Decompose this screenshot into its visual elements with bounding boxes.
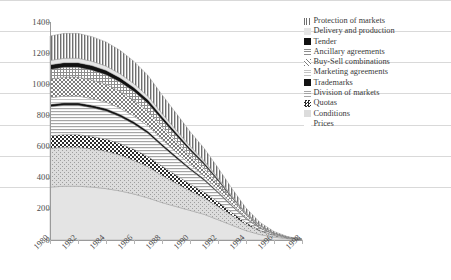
legend-item[interactable]: Marketing agreements xyxy=(304,67,450,77)
legend-item-label: Prices xyxy=(314,119,334,129)
x-axis-tick xyxy=(162,240,163,244)
legend-item-label: Delivery and production xyxy=(314,26,395,36)
legend-item-label: Conditions xyxy=(314,109,350,119)
legend-item-label: Protection of markets xyxy=(314,16,385,26)
x-axis-tick xyxy=(302,240,303,244)
legend-item[interactable]: Conditions xyxy=(304,109,450,119)
y-axis-tick xyxy=(46,147,50,148)
checker-swatch xyxy=(304,100,311,107)
x-axis-tick xyxy=(190,240,191,244)
legend-item[interactable]: Tender xyxy=(304,37,450,47)
x-axis-tick xyxy=(50,240,51,244)
legend-item-label: Marketing agreements xyxy=(314,67,388,77)
x-axis-label: 1980 xyxy=(32,233,50,251)
legend-item-label: Buy-Sell combinations xyxy=(314,57,390,67)
legend-item-label: Trademarks xyxy=(314,78,353,88)
x-axis-tick xyxy=(106,240,107,244)
speckle-swatch xyxy=(304,110,311,117)
grid-hatch-swatch xyxy=(304,48,311,55)
x-axis-label: 1992 xyxy=(200,233,218,251)
solid-black-swatch xyxy=(304,38,311,45)
x-axis-tick xyxy=(274,240,275,244)
legend-item[interactable]: Ancillary agreements xyxy=(304,47,450,57)
legend-item[interactable]: Delivery and production xyxy=(304,26,450,36)
legend-item[interactable]: Division of markets xyxy=(304,88,450,98)
legend-item[interactable]: Prices xyxy=(304,119,450,129)
legend-item-label: Ancillary agreements xyxy=(314,47,385,57)
legend-item-label: Tender xyxy=(314,37,337,47)
x-axis-label: 1996 xyxy=(256,233,274,251)
y-axis-tick xyxy=(46,115,50,116)
legend-item-label: Division of markets xyxy=(314,88,380,98)
y-axis-tick xyxy=(46,209,50,210)
x-axis-label: 1984 xyxy=(88,233,106,251)
y-axis-tick xyxy=(46,84,50,85)
x-axis-tick xyxy=(134,240,135,244)
vertical-lines-swatch xyxy=(304,18,311,25)
legend-item-label: Quotas xyxy=(314,98,338,108)
x-axis-label: 1986 xyxy=(116,233,134,251)
legend-item[interactable]: Trademarks xyxy=(304,78,450,88)
x-axis-label: 1998 xyxy=(284,233,302,251)
diagonal-cross-swatch xyxy=(304,59,311,66)
pale-swatch xyxy=(304,28,311,35)
x-axis-label: 1990 xyxy=(172,233,190,251)
horizontal-lines-swatch xyxy=(304,90,311,97)
y-axis-tick xyxy=(46,178,50,179)
x-axis-label: 1982 xyxy=(60,233,78,251)
solid-black-swatch xyxy=(304,79,311,86)
blank-swatch xyxy=(304,120,311,127)
chart-legend: Protection of marketsDelivery and produc… xyxy=(304,16,450,129)
x-axis-tick xyxy=(246,240,247,244)
x-axis-tick xyxy=(218,240,219,244)
fine-light-swatch xyxy=(304,69,311,76)
y-axis-tick xyxy=(46,53,50,54)
x-axis-label: 1994 xyxy=(228,233,246,251)
legend-item[interactable]: Quotas xyxy=(304,98,450,108)
legend-item[interactable]: Protection of markets xyxy=(304,16,450,26)
y-axis-tick xyxy=(46,22,50,23)
chart-figure: 0200400600800100012001400 19801982198419… xyxy=(0,0,451,280)
x-axis-label: 1988 xyxy=(144,233,162,251)
legend-item[interactable]: Buy-Sell combinations xyxy=(304,57,450,67)
x-axis-tick xyxy=(78,240,79,244)
